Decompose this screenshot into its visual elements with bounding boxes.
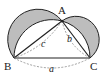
label-vertex-a: A	[58, 4, 66, 16]
lunes-diagram: A B C c b a	[0, 0, 108, 79]
vertex-a-dot	[61, 20, 64, 23]
label-side-b: b	[67, 33, 72, 44]
label-side-a: a	[49, 63, 54, 74]
label-side-c: c	[41, 38, 46, 49]
label-vertex-b: B	[4, 60, 11, 72]
lune-ab	[8, 9, 62, 58]
label-vertex-c: C	[90, 60, 97, 72]
